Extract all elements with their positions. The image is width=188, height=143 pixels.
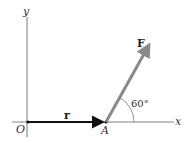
f-vector-label: F bbox=[137, 37, 145, 50]
r-vector-label: r bbox=[64, 109, 70, 122]
vector-diagram: y x O A r F 60° bbox=[0, 0, 188, 143]
origin-label: O bbox=[16, 123, 25, 136]
f-vector bbox=[106, 45, 149, 122]
origin-point bbox=[26, 120, 29, 123]
y-axis-label: y bbox=[22, 5, 30, 18]
x-axis-label: x bbox=[175, 115, 182, 128]
point-a-label: A bbox=[100, 124, 109, 137]
angle-label: 60° bbox=[131, 98, 149, 109]
